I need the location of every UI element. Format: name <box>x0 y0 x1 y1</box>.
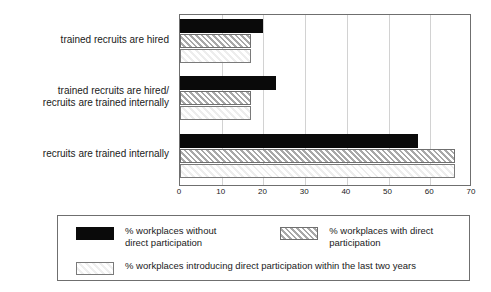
x-axis-tick-labels: 010203040506070 <box>179 187 471 201</box>
x-tick-label: 60 <box>425 187 434 196</box>
bar-group <box>180 15 470 72</box>
category-axis-labels: trained recruits are hiredtrained recrui… <box>0 14 174 186</box>
bar-0 <box>180 134 418 148</box>
legend-swatch-hatched-icon <box>280 227 318 240</box>
bar-0 <box>180 19 263 33</box>
category-label: trained recruits are hired <box>61 34 169 47</box>
x-tick-label: 30 <box>300 187 309 196</box>
bar-1 <box>180 91 251 105</box>
bar-1 <box>180 34 251 48</box>
legend-swatch-black-icon <box>76 227 114 240</box>
x-tick-label: 70 <box>467 187 476 196</box>
legend-label-without-direct-participation: % workplaces without direct participatio… <box>125 225 216 248</box>
category-label: recruits are trained internally <box>43 148 169 161</box>
legend-item-with-direct-participation: % workplaces with direct participation <box>280 225 456 248</box>
legend-item-introducing-direct-participation: % workplaces introducing direct particip… <box>76 260 416 275</box>
chart-plot-area <box>179 14 471 186</box>
legend-row-bottom: % workplaces introducing direct particip… <box>76 260 456 275</box>
chart-legend: % workplaces without direct participatio… <box>57 215 470 281</box>
x-tick-label: 50 <box>383 187 392 196</box>
legend-item-without-direct-participation: % workplaces without direct participatio… <box>76 225 280 248</box>
legend-swatch-light-icon <box>76 262 114 275</box>
legend-row-top: % workplaces without direct participatio… <box>76 225 456 248</box>
legend-label-introducing-direct-participation: % workplaces introducing direct particip… <box>125 260 416 272</box>
bars-layer <box>180 15 470 185</box>
x-tick-label: 20 <box>258 187 267 196</box>
bar-group <box>180 130 470 187</box>
bar-1 <box>180 149 455 163</box>
legend-label-with-direct-participation: % workplaces with direct participation <box>329 225 433 248</box>
bar-2 <box>180 164 455 178</box>
x-tick-label: 40 <box>341 187 350 196</box>
bar-0 <box>180 76 276 90</box>
bar-group <box>180 72 470 129</box>
bar-2 <box>180 49 251 63</box>
category-label: trained recruits are hired/ recruits are… <box>43 85 169 110</box>
x-tick-label: 10 <box>216 187 225 196</box>
x-tick-label: 0 <box>177 187 181 196</box>
bar-2 <box>180 106 251 120</box>
